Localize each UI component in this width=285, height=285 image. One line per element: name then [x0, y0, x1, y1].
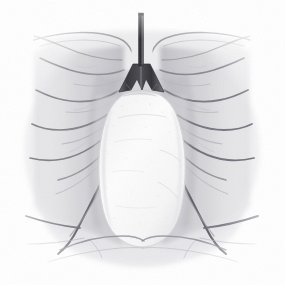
illustration-canvas — [0, 0, 285, 285]
surgical-illustration-figure: Medical line drawing of a chisel-like su… — [0, 0, 285, 285]
paper-grain-overlay — [0, 0, 285, 285]
